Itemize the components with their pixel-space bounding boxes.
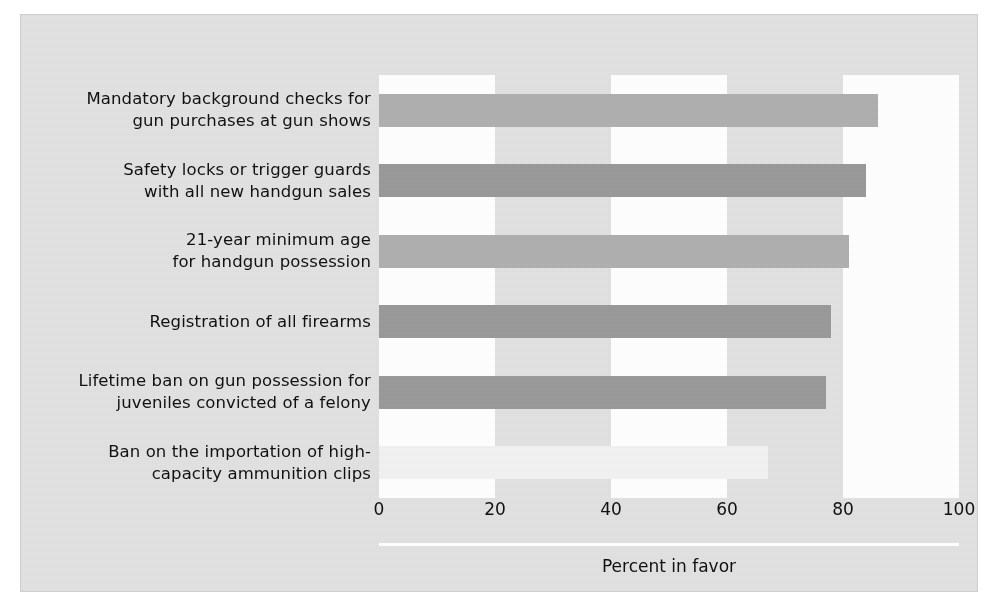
- bar: [379, 305, 831, 338]
- category-label: Safety locks or trigger guardswith all n…: [41, 159, 371, 203]
- bar-row: [379, 446, 959, 479]
- axis-band-40-60: [611, 75, 727, 498]
- bar: [379, 94, 878, 127]
- bar-row: [379, 235, 959, 268]
- x-axis-rule: [379, 543, 959, 546]
- category-axis-labels: Mandatory background checks forgun purch…: [39, 75, 371, 498]
- axis-band-0-20: [379, 75, 495, 498]
- bar: [379, 164, 866, 197]
- bar: [379, 376, 826, 409]
- bar-row: [379, 376, 959, 409]
- chart-figure: Mandatory background checks forgun purch…: [0, 0, 998, 615]
- category-label-line: with all new handgun sales: [41, 181, 371, 203]
- x-tick-label: 0: [374, 499, 385, 519]
- bar: [379, 446, 768, 479]
- axis-band-80-100: [843, 75, 959, 498]
- x-axis-title: Percent in favor: [379, 556, 959, 576]
- figure-frame: Mandatory background checks forgun purch…: [20, 14, 978, 592]
- x-tick-label: 60: [716, 499, 738, 519]
- category-label-line: for handgun possession: [41, 251, 371, 273]
- category-label: Lifetime ban on gun possession forjuveni…: [41, 370, 371, 414]
- category-label: Registration of all firearms: [41, 311, 371, 333]
- x-tick-label: 80: [832, 499, 854, 519]
- plot-area: [379, 75, 959, 498]
- category-label-line: Safety locks or trigger guards: [41, 159, 371, 181]
- bar: [379, 235, 849, 268]
- axis-band-60-80: [727, 75, 843, 498]
- x-tick-label: 20: [484, 499, 506, 519]
- category-label: 21-year minimum agefor handgun possessio…: [41, 229, 371, 273]
- category-label: Mandatory background checks forgun purch…: [41, 88, 371, 132]
- category-label-line: Lifetime ban on gun possession for: [41, 370, 371, 392]
- bar-row: [379, 94, 959, 127]
- category-label-line: 21-year minimum age: [41, 229, 371, 251]
- axis-band-20-40: [495, 75, 611, 498]
- category-label-line: gun purchases at gun shows: [41, 110, 371, 132]
- bar-row: [379, 164, 959, 197]
- category-label-line: Registration of all firearms: [41, 311, 371, 333]
- category-label-line: Mandatory background checks for: [41, 88, 371, 110]
- category-label-line: juveniles convicted of a felony: [41, 392, 371, 414]
- bar-row: [379, 305, 959, 338]
- x-tick-label: 40: [600, 499, 622, 519]
- category-label-line: capacity ammunition clips: [41, 463, 371, 485]
- category-label: Ban on the importation of high-capacity …: [41, 441, 371, 485]
- category-label-line: Ban on the importation of high-: [41, 441, 371, 463]
- x-axis-tick-labels: 020406080100: [379, 499, 959, 525]
- x-tick-label: 100: [943, 499, 975, 519]
